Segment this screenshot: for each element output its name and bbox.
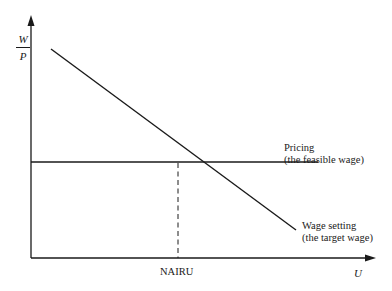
pricing-sublabel: (the feasible wage) bbox=[284, 154, 364, 166]
y-axis-label-numerator: W bbox=[15, 33, 31, 45]
x-axis-arrow-icon bbox=[365, 255, 376, 262]
y-axis-arrow-icon bbox=[28, 15, 35, 26]
pricing-label: Pricing bbox=[284, 142, 314, 154]
y-axis-label: W P bbox=[15, 33, 31, 62]
fraction-bar bbox=[16, 47, 30, 48]
y-axis-label-denominator: P bbox=[15, 50, 31, 62]
nairu-label: NAIRU bbox=[160, 266, 193, 278]
wage-setting-sublabel: (the target wage) bbox=[302, 232, 373, 244]
nairu-diagram bbox=[0, 0, 392, 291]
x-axis-label: U bbox=[354, 267, 362, 279]
wage-setting-line bbox=[51, 49, 296, 230]
wage-setting-label: Wage setting bbox=[302, 220, 356, 232]
